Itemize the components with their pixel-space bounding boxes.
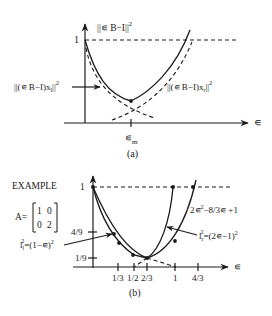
x-tick-label-1: 1 [173, 273, 178, 283]
dash-right-continuation-b [134, 258, 147, 267]
matrix-name: A= [15, 212, 27, 222]
matrix-cell: 0 [37, 220, 42, 230]
matrix-right-bracket [54, 203, 57, 232]
point-right-1-1 [171, 185, 175, 189]
x-tick-label-1-2: 1/2 [127, 273, 139, 283]
curve-left-a [86, 48, 155, 118]
label-right-a: ||(∊ B−I)xr||2 [167, 79, 212, 93]
curve-right-b [147, 187, 173, 258]
y-tick-label-1: 1 [80, 182, 85, 192]
x-tick-label-2-3: 2/3 [141, 273, 153, 283]
point-left-1-2 [131, 253, 135, 257]
panel-b: EXAMPLE A= 1 0 0 2 1 4/9 1/9 1/3 1/2 2/3… [12, 176, 241, 299]
x-axis-label-b: ∊ [234, 261, 241, 272]
y-tick-1-a: 1 [74, 34, 79, 45]
x-tick-label-1-3: 1/3 [112, 273, 124, 283]
example-label: EXAMPLE [12, 181, 57, 191]
label-left-a: ||(∊ B−I)xl||2 [14, 79, 59, 93]
point-total-1-3 [117, 241, 121, 245]
x-tick-label-4-3: 4/3 [192, 273, 204, 283]
point-min-2-3 [145, 256, 149, 260]
curve-left-b [93, 187, 147, 258]
matrix-cell: 2 [47, 220, 52, 230]
label-right-b: lr2=(2∊−1)2 [199, 229, 238, 242]
point-left-4-9 [112, 232, 116, 236]
matrix-cell: 1 [37, 206, 42, 216]
matrix-a: A= 1 0 0 2 [15, 203, 57, 232]
panel-a: 1 ∊ ∊m ||∊ B−I||2 ||(∊ B−I)xl||2 ||(∊ B−… [14, 20, 262, 160]
label-total-b: 2∊2−8/3∊ +1 [190, 204, 238, 215]
curve-total-b [93, 180, 196, 258]
diagram: 1 ∊ ∊m ||∊ B−I||2 ||(∊ B−I)xl||2 ||(∊ B−… [0, 0, 272, 316]
label-left-b: ll2=(1−∊)2 [20, 238, 54, 251]
y-tick-label-4-9: 4/9 [71, 227, 83, 237]
min-point-a [129, 99, 133, 103]
y-tick-label-1-9: 1/9 [75, 253, 87, 263]
point-total-1 [173, 239, 177, 243]
matrix-left-bracket [33, 203, 36, 232]
point-total-4-3 [191, 185, 195, 189]
caption-a: (a) [127, 148, 138, 160]
arrow-right-label-b [167, 227, 197, 235]
label-total-a: ||∊ B−I||2 [97, 20, 132, 33]
x-axis-label-a: ∊ [254, 116, 262, 128]
point-0-1 [91, 185, 95, 189]
caption-b: (b) [129, 287, 141, 299]
dash-left-continuation-b [147, 258, 176, 267]
curve-right-a [112, 42, 192, 120]
matrix-cell: 0 [47, 206, 52, 216]
x-tick-label-eps-m: ∊m [125, 132, 138, 146]
